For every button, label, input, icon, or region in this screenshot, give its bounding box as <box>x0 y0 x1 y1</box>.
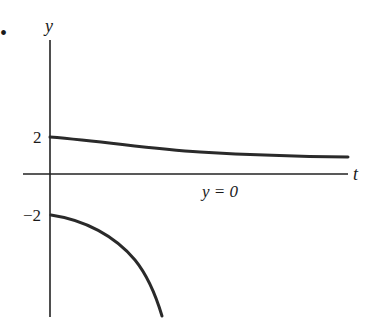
equilibrium-label: y = 0 <box>200 182 239 201</box>
lower-solution-curve <box>51 215 162 316</box>
y-tick-neg2: −2 <box>23 206 41 225</box>
y-tick-2: 2 <box>33 128 42 147</box>
y-axis-label: y <box>43 16 53 36</box>
equilibrium-label-text: y = 0 <box>200 182 239 201</box>
direction-field-chart: • y t 2 −2 y = 0 <box>0 0 368 326</box>
t-axis-label: t <box>353 164 359 184</box>
item-marker: • <box>0 22 7 44</box>
upper-solution-curve <box>50 137 348 157</box>
